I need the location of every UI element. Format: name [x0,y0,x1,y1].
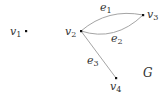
edge-e1 [81,13,143,31]
vertex-v2-label: v2 [65,25,76,39]
vertex-v1-label: v1 [10,25,21,39]
vertex-v4-label: v4 [110,80,121,94]
vertex-v1-dot [25,30,27,32]
edge-e3-label: e3 [87,54,99,68]
vertex-v4-dot [115,77,117,79]
vertex-v3-dot [142,14,144,16]
vertex-v3-label: v3 [147,8,158,22]
vertex-v2-dot [80,30,82,32]
graph-diagram: v1 v2 v3 v4 e1 e2 e3 G [0,0,165,96]
edge-e1-label: e1 [100,1,112,15]
edge-e2-label: e2 [111,32,123,46]
graph-name-label: G [143,66,153,80]
